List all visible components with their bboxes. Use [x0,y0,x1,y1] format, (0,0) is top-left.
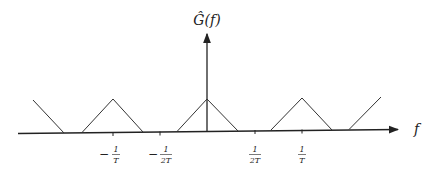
svg-text:1: 1 [113,145,118,154]
svg-text:1: 1 [252,145,257,154]
triangle-minus-1-over-T [82,99,143,133]
triangle-1-over-T [271,98,332,130]
svg-text:T: T [113,156,119,165]
svg-text:−: − [99,147,109,161]
tick-label-1-over-2T: 1 2T [249,145,261,165]
svg-text:−: − [148,147,158,161]
svg-text:1: 1 [299,145,304,154]
svg-text:2T: 2T [249,156,261,165]
tick-label-1-over-T: 1 T [298,145,306,165]
svg-text:T: T [299,156,305,165]
partial-triangle-right [349,97,381,130]
partial-triangle-left [33,100,64,133]
y-axis-label: Ĝ(f) [193,11,220,28]
tick-label-minus-1-over-2T: − 1 2T [148,145,172,165]
x-axis-label: f [413,121,422,137]
x-axis [18,130,398,134]
svg-text:1: 1 [163,145,168,154]
spectrum-diagram: Ĝ(f) f − 1 T − 1 2T 1 2T 1 T [0,0,438,174]
svg-text:2T: 2T [160,156,172,165]
tick-label-minus-1-over-T: − 1 T [99,145,120,165]
